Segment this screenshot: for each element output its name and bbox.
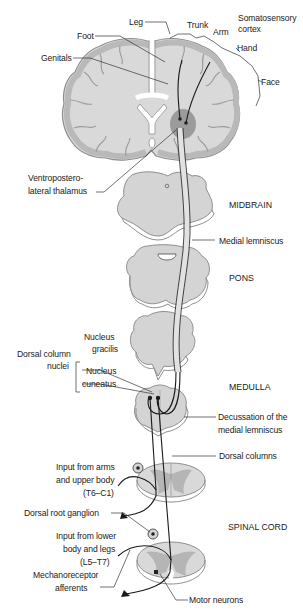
medulla-lower-section [134, 385, 188, 436]
label-input-upper-line3: (T6–C1) [83, 488, 114, 498]
label-nucleus-cuneatus-line2: cuneatus [82, 379, 116, 389]
label-vpl-line2: lateral thalamus [28, 186, 87, 196]
label-dorsal-column-nuclei-line1: Dorsal column [17, 349, 71, 359]
label-hand: Hand [237, 43, 257, 53]
label-medial-lemniscus: Medial lemniscus [219, 236, 283, 246]
label-midbrain: MIDBRAIN [229, 200, 272, 210]
label-input-lower-line3: (L5–T7) [80, 557, 109, 567]
label-input-upper-line1: Input from arms [56, 462, 115, 472]
label-vpl-line1: Ventropostero- [28, 173, 83, 183]
label-medulla: MEDULLA [229, 382, 271, 392]
label-mechanoreceptor-line1: Mechanoreceptor [33, 570, 98, 580]
label-nucleus-cuneatus-line1: Nucleus [86, 366, 116, 376]
label-foot: Foot [77, 31, 94, 41]
brain-coronal-section [62, 39, 239, 161]
label-nucleus-gracilis-line2: gracilis [92, 344, 118, 354]
label-genitals: Genitals [41, 53, 72, 63]
dcml-pathway-diagram: Leg Trunk Arm Somatosensory cortex Hand … [0, 0, 303, 614]
label-input-upper-line2: and upper body [56, 475, 114, 485]
label-trunk: Trunk [187, 20, 208, 30]
label-pons: PONS [229, 273, 254, 283]
label-nucleus-gracilis-line1: Nucleus [84, 332, 114, 342]
label-arm: Arm [213, 27, 228, 37]
medulla-upper-section [130, 312, 195, 381]
label-dorsal-column-nuclei-line2: nuclei [47, 361, 69, 371]
label-dorsal-root-ganglion: Dorsal root ganglion [24, 508, 99, 518]
label-decussation-line2: medial lemniscus [218, 425, 282, 435]
label-somatosensory-cortex-line2: cortex [238, 24, 261, 34]
spinal-cord-upper-section [137, 463, 205, 502]
label-decussation-line1: Decussation of the [218, 412, 287, 422]
label-input-lower-line2: body and legs [63, 544, 115, 554]
label-mechanoreceptor-line2: afferents [55, 583, 87, 593]
label-spinal-cord: SPINAL CORD [228, 522, 287, 532]
label-face: Face [261, 77, 280, 87]
midbrain-section [118, 172, 214, 240]
arrowheads [120, 512, 130, 597]
label-input-lower-line1: Input from lower [56, 531, 116, 541]
label-motor-neurons: Motor neurons [189, 595, 243, 605]
label-somatosensory-cortex-line1: Somatosensory [238, 13, 296, 23]
label-leg: Leg [129, 17, 143, 27]
pons-section [127, 245, 210, 309]
label-dorsal-columns: Dorsal columns [219, 451, 277, 461]
